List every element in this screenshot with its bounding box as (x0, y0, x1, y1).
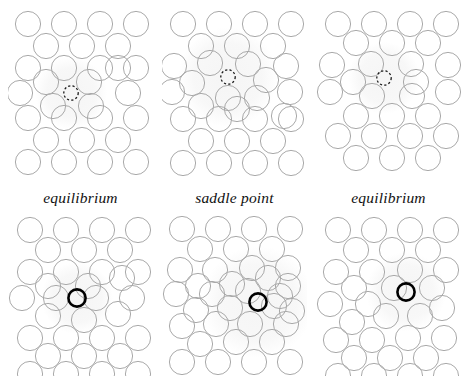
label-saddle-point: saddle point (162, 188, 307, 208)
lattice-atom (17, 217, 42, 242)
lattice-atom (33, 33, 58, 58)
lattice-atom (242, 150, 267, 175)
lattice-atom (361, 363, 386, 376)
lattice-svg-top-left (8, 6, 153, 184)
lattice-atom (15, 11, 40, 36)
lattice-atom (125, 361, 150, 376)
lattice-atom (17, 361, 42, 376)
lattice-svg-top-middle (162, 6, 307, 184)
lattice-atom (343, 237, 368, 262)
lattice-atom (397, 363, 422, 376)
lattice-atom (343, 30, 368, 55)
lattice-atom (435, 52, 460, 77)
lattice-atom (170, 11, 195, 36)
lattice-atom (433, 123, 458, 148)
lattice-atom (397, 11, 422, 36)
lattice-atom (71, 237, 96, 262)
lattice-atom (15, 55, 40, 80)
lattice-atom (123, 11, 148, 36)
lattice-atom (169, 349, 194, 374)
lattice-svg-top-right (316, 6, 461, 184)
strain-field-halo (35, 57, 107, 129)
lattice-atom (206, 150, 231, 175)
lattice-svg-bottom-left (8, 216, 153, 376)
lattice-atom (53, 361, 78, 376)
panel-label-row: equilibrium saddle point equilibrium (0, 188, 469, 212)
lattice-atom (169, 216, 194, 241)
lattice-atom (325, 217, 350, 242)
lattice-atom (35, 237, 60, 262)
lattice-atom (361, 11, 386, 36)
lattice-atom (431, 325, 456, 350)
lattice-atom (278, 11, 303, 36)
lattice-atom (125, 259, 150, 284)
lattice-atom (323, 259, 348, 284)
lattice-atom (325, 11, 350, 36)
lattice-atom (105, 33, 130, 58)
lattice-atom (125, 217, 150, 242)
lattice-svg-bottom-right (316, 216, 461, 376)
lattice-atom (343, 103, 368, 128)
lattice-atom (105, 127, 130, 152)
panel-top-right (316, 6, 461, 184)
lattice-atom (242, 11, 267, 36)
label-equilibrium-left: equilibrium (8, 188, 153, 208)
lattice-atom (317, 79, 342, 104)
lattice-atom (123, 149, 148, 174)
lattice-atom (170, 106, 195, 131)
panel-bottom-right (316, 216, 461, 376)
lattice-diffusion-figure: equilibrium saddle point equilibrium (0, 0, 469, 379)
lattice-atom (339, 309, 364, 334)
lattice-atom (415, 30, 440, 55)
panel-top-middle (162, 6, 307, 184)
panel-top-left (8, 6, 153, 184)
lattice-atom (433, 363, 458, 376)
lattice-atom (397, 217, 422, 242)
lattice-atom (435, 79, 460, 104)
lattice-atom (187, 236, 212, 261)
lattice-atom (205, 216, 230, 241)
lattice-svg-bottom-middle (162, 216, 307, 376)
lattice-atom (397, 123, 422, 148)
lattice-atom (69, 33, 94, 58)
lattice-atom (317, 291, 342, 316)
lattice-atom (241, 216, 266, 241)
lattice-atom (188, 128, 213, 153)
lattice-atom (277, 349, 302, 374)
lattice-atom (123, 105, 148, 130)
lattice-atom (119, 285, 144, 310)
lattice-atom (53, 217, 78, 242)
lattice-atom (17, 259, 42, 284)
lattice-atom (379, 145, 404, 170)
lattice-atom (433, 217, 458, 242)
lattice-atom (278, 106, 303, 131)
lattice-atom (343, 145, 368, 170)
lattice-atom (278, 150, 303, 175)
lattice-atom (69, 127, 94, 152)
lattice-atom (163, 281, 188, 306)
lattice-atom (361, 123, 386, 148)
lattice-atom (277, 79, 302, 104)
lattice-atom (277, 216, 302, 241)
lattice-atom (361, 217, 386, 242)
lattice-atom (9, 285, 34, 310)
lattice-atom (341, 275, 366, 300)
lattice-atom (87, 11, 112, 36)
lattice-atom (15, 105, 40, 130)
lattice-atom (415, 145, 440, 170)
lattice-atom (33, 127, 58, 152)
lattice-atom (167, 257, 192, 282)
panel-bottom-left (8, 216, 153, 376)
lattice-atom (115, 80, 140, 105)
lattice-atom (51, 149, 76, 174)
lattice-atom (271, 103, 296, 128)
lattice-atom (205, 349, 230, 374)
lattice-atom (224, 128, 249, 153)
lattice-atom (8, 80, 33, 105)
lattice-atom (260, 128, 285, 153)
lattice-atom (87, 149, 112, 174)
lattice-atom (51, 11, 76, 36)
label-equilibrium-right: equilibrium (316, 188, 461, 208)
lattice-atom (107, 237, 132, 262)
lattice-atom (89, 361, 114, 376)
